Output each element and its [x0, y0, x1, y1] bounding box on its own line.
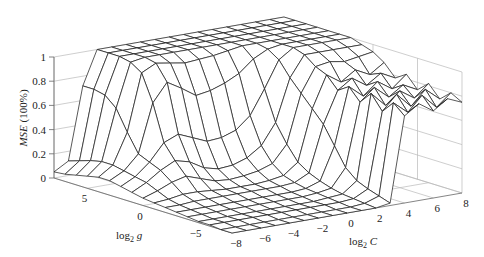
x-tick-label: −4	[288, 227, 300, 239]
z-tick-label: 0.4	[32, 124, 46, 136]
z-tick-label: 1	[41, 51, 47, 63]
y-axis-label: log2 g	[116, 229, 143, 244]
x-tick-label: −6	[259, 232, 271, 244]
x-axis-label: log2 C	[349, 235, 378, 250]
x-tick-label: 8	[463, 197, 469, 209]
z-axis-label: MSE (100%)	[17, 89, 30, 147]
y-tick-label: 0	[137, 210, 143, 222]
x-tick-label: 6	[435, 202, 441, 214]
z-tick-label: 0.2	[32, 148, 46, 160]
mse-surface	[54, 17, 462, 233]
x-tick-label: −8	[230, 237, 242, 249]
y-tick-label: −5	[190, 227, 202, 239]
z-tick-label: 0	[41, 172, 47, 184]
y-tick-label: 5	[82, 192, 88, 204]
z-tick-label: 0.8	[32, 75, 46, 87]
x-tick-label: 4	[406, 207, 412, 219]
x-tick-label: −2	[316, 222, 328, 234]
x-tick-label: 0	[348, 217, 354, 229]
z-tick-label: 0.6	[32, 99, 46, 111]
x-tick-label: 2	[377, 212, 383, 224]
surface-plot: 00.20.40.60.81−8−6−4−20246850−5 MSE (100…	[0, 0, 484, 257]
